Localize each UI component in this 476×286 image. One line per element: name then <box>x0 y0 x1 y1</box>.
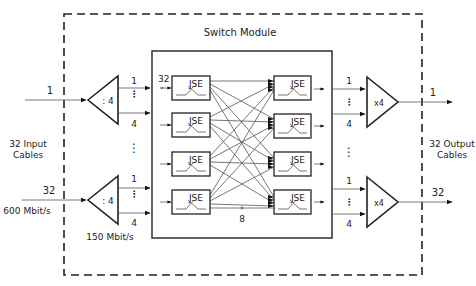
input-top: 1 : 4 1 4 ⋮ <box>25 76 150 129</box>
svg-text:32: 32 <box>43 185 56 196</box>
right-jse-column: JSE JSE JSE JSE <box>268 76 324 214</box>
svg-text:1: 1 <box>47 85 53 96</box>
input-cables-label-2: Cables <box>13 150 44 160</box>
svg-text:4: 4 <box>346 219 352 229</box>
link-node <box>241 207 244 210</box>
interconnect-wires <box>210 81 274 208</box>
output-cables-label-2: Cables <box>437 150 468 160</box>
svg-text:⋮: ⋮ <box>130 189 139 199</box>
svg-text:JSE: JSE <box>188 193 203 203</box>
svg-text:⋮: ⋮ <box>345 97 354 107</box>
links-label: 8 <box>239 214 245 224</box>
svg-text:4: 4 <box>131 218 137 228</box>
svg-text:: 4: : 4 <box>102 196 114 206</box>
jse-element: JSE <box>172 152 210 176</box>
jse-element: JSE <box>172 76 210 100</box>
output-dots: ⋮ <box>343 145 355 159</box>
demux-rate-label: 150 Mbit/s <box>86 232 134 242</box>
output-bottom: 1 4 ⋮ x4 32 <box>332 176 452 229</box>
module-title: Switch Module <box>204 27 277 38</box>
svg-text:1: 1 <box>131 76 137 86</box>
output-top: 1 4 ⋮ x4 1 <box>332 76 452 129</box>
jse-element: JSE <box>274 76 311 100</box>
svg-text:32: 32 <box>432 187 445 198</box>
svg-text:JSE: JSE <box>290 193 305 203</box>
svg-text:JSE: JSE <box>290 117 305 127</box>
inputs-per-element-label: 32 <box>158 74 169 84</box>
svg-text:1: 1 <box>346 76 352 86</box>
svg-text:1: 1 <box>430 87 436 98</box>
svg-text:JSE: JSE <box>188 116 203 126</box>
switch-module-diagram: Switch Module 8 JSE JSE JSE <box>0 0 476 286</box>
jse-element: JSE <box>274 114 311 138</box>
svg-text:⋮: ⋮ <box>345 197 354 207</box>
svg-text:JSE: JSE <box>290 155 305 165</box>
jse-element: JSE <box>172 190 210 214</box>
jse-element: JSE <box>274 152 311 176</box>
jse-element: JSE <box>172 113 210 137</box>
svg-text:⋮: ⋮ <box>130 89 139 99</box>
svg-text:1: 1 <box>131 174 137 184</box>
output-cables-label: 32 Output <box>429 139 475 149</box>
svg-text:JSE: JSE <box>188 155 203 165</box>
svg-text:x4: x4 <box>374 99 384 108</box>
left-jse-column: JSE JSE JSE JSE 32 <box>158 74 210 214</box>
input-cables-label: 32 Input <box>9 139 47 149</box>
input-bottom: 32 600 Mbit/s : 4 1 4 ⋮ 150 Mbit/s <box>3 174 150 242</box>
input-dots: ⋮ <box>128 141 140 155</box>
svg-text:4: 4 <box>346 119 352 129</box>
svg-text:JSE: JSE <box>188 79 203 89</box>
svg-text:600 Mbit/s: 600 Mbit/s <box>3 206 51 216</box>
svg-text:4: 4 <box>131 119 137 129</box>
svg-text:: 4: : 4 <box>102 96 114 106</box>
svg-text:x4: x4 <box>374 199 384 208</box>
svg-text:JSE: JSE <box>290 79 305 89</box>
jse-element: JSE <box>274 190 311 214</box>
svg-text:1: 1 <box>346 176 352 186</box>
